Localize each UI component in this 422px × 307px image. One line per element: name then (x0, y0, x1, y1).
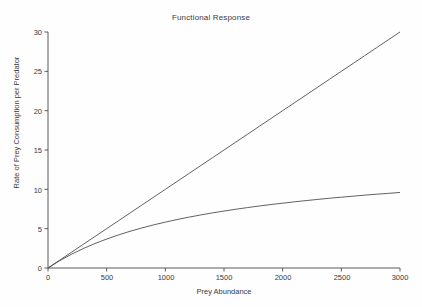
data-series-group (48, 32, 400, 268)
x-axis-ticks (48, 268, 400, 272)
chart-canvas (0, 0, 422, 307)
y-axis-ticks (45, 32, 49, 268)
chart-figure: Functional Response Rate of Prey Consump… (0, 0, 422, 307)
series-line-type-ii (48, 192, 400, 268)
series-line-type-i (48, 32, 400, 268)
